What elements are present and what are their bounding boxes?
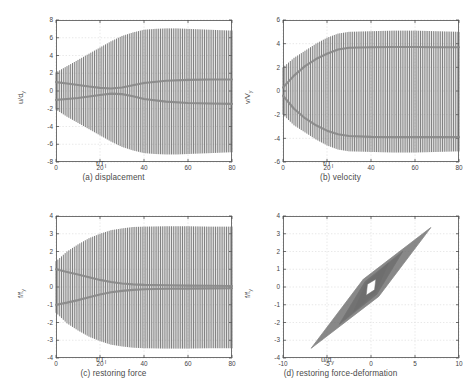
svg-text:5: 5 <box>413 360 417 367</box>
svg-text:0: 0 <box>49 87 53 94</box>
panel-b-velocity: 020406080-6-4-20246 t/TI v/Vy (b) veloci… <box>227 0 454 196</box>
svg-text:2: 2 <box>276 248 280 255</box>
panel-b-axes: 020406080-6-4-20246 <box>261 14 467 174</box>
svg-text:1: 1 <box>49 265 53 272</box>
svg-text:40: 40 <box>367 164 375 171</box>
panel-d-plot: -10-50510-4-3-2-101234 <box>261 210 467 370</box>
panel-c-xaxis-title: t/TI <box>96 355 106 365</box>
svg-text:0: 0 <box>369 360 373 367</box>
svg-text:-1: -1 <box>47 301 53 308</box>
svg-text:10: 10 <box>455 360 463 367</box>
svg-text:60: 60 <box>184 360 192 367</box>
svg-text:60: 60 <box>411 164 419 171</box>
svg-text:0: 0 <box>49 283 53 290</box>
svg-text:1: 1 <box>276 265 280 272</box>
svg-text:-2: -2 <box>47 105 53 112</box>
svg-text:40: 40 <box>140 360 148 367</box>
panel-a-xaxis-title: t/TI <box>96 159 106 169</box>
svg-text:6: 6 <box>49 34 53 41</box>
panel-d-caption: (d) restoring force-deformation <box>227 369 454 378</box>
panel-d-axes: -10-50510-4-3-2-101234 <box>261 210 467 370</box>
svg-text:0: 0 <box>54 164 58 171</box>
panel-a-yaxis-title: u/dy <box>16 91 26 104</box>
panel-d-xaxis-title: u/dy <box>321 355 334 365</box>
svg-text:6: 6 <box>276 16 280 23</box>
panel-d-yaxis-title: f/fy <box>243 289 253 298</box>
panel-c-axes: 020406080-4-3-2-101234 <box>34 210 240 370</box>
svg-text:2: 2 <box>49 69 53 76</box>
panel-a-displacement: 020406080-8-6-4-202468 t/TI u/dy (a) dis… <box>0 0 227 196</box>
svg-text:0: 0 <box>276 87 280 94</box>
svg-text:8: 8 <box>49 16 53 23</box>
svg-text:80: 80 <box>455 164 463 171</box>
panel-c-plot: 020406080-4-3-2-101234 <box>34 210 240 370</box>
svg-text:-4: -4 <box>47 123 53 130</box>
svg-text:-6: -6 <box>47 140 53 147</box>
panel-b-xaxis-title: t/TI <box>323 159 333 169</box>
panel-c-yaxis-title: f/fy <box>16 289 26 298</box>
svg-text:-3: -3 <box>274 336 280 343</box>
svg-text:4: 4 <box>276 212 280 219</box>
svg-text:3: 3 <box>49 230 53 237</box>
svg-text:60: 60 <box>184 164 192 171</box>
svg-text:-2: -2 <box>274 111 280 118</box>
svg-text:2: 2 <box>49 248 53 255</box>
panel-a-caption: (a) displacement <box>0 173 227 182</box>
panel-c-caption: (c) restoring force <box>0 369 227 378</box>
svg-text:40: 40 <box>140 164 148 171</box>
panel-b-yaxis-title: v/Vy <box>243 91 253 104</box>
panel-a-plot: 020406080-8-6-4-202468 <box>34 14 240 174</box>
panel-b-plot: 020406080-6-4-20246 <box>261 14 467 174</box>
svg-text:0: 0 <box>281 164 285 171</box>
svg-text:0: 0 <box>276 283 280 290</box>
svg-text:-8: -8 <box>47 158 53 165</box>
svg-text:-2: -2 <box>47 319 53 326</box>
panel-d-force-deformation: -10-50510-4-3-2-101234 u/dy f/fy (d) res… <box>227 196 454 391</box>
svg-text:4: 4 <box>49 212 53 219</box>
panel-b-caption: (b) velocity <box>227 173 454 182</box>
panel-c-restoring-force: 020406080-4-3-2-101234 t/TI f/fy (c) res… <box>0 196 227 391</box>
svg-text:-6: -6 <box>274 158 280 165</box>
svg-text:0: 0 <box>54 360 58 367</box>
svg-text:-4: -4 <box>274 135 280 142</box>
svg-text:2: 2 <box>276 64 280 71</box>
svg-text:-1: -1 <box>274 301 280 308</box>
svg-text:-3: -3 <box>47 336 53 343</box>
svg-text:-4: -4 <box>274 354 280 361</box>
svg-text:-4: -4 <box>47 354 53 361</box>
svg-text:-2: -2 <box>274 319 280 326</box>
svg-text:4: 4 <box>49 52 53 59</box>
panel-a-axes: 020406080-8-6-4-202468 <box>34 14 240 174</box>
svg-text:3: 3 <box>276 230 280 237</box>
svg-text:4: 4 <box>276 40 280 47</box>
